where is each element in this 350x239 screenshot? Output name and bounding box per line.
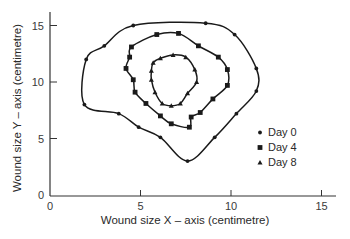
legend-item: Day 0 — [258, 126, 297, 138]
square-marker-icon — [196, 43, 201, 48]
series-day-0 — [82, 21, 259, 163]
series-layer — [82, 21, 259, 163]
series-curve — [151, 55, 197, 106]
y-tick-label: 5 — [38, 133, 44, 145]
series-curve — [82, 22, 259, 161]
square-marker-icon — [225, 83, 230, 88]
triangle-marker-icon — [152, 90, 157, 95]
triangle-marker-icon — [149, 77, 154, 82]
square-marker-icon — [198, 110, 203, 115]
square-marker-icon — [144, 101, 149, 106]
circle-marker-icon — [159, 135, 163, 139]
legend-label: Day 4 — [268, 141, 297, 153]
legend-item: Day 4 — [258, 141, 297, 153]
circle-marker-icon — [186, 159, 190, 163]
circle-marker-icon — [235, 112, 239, 116]
legend-item: Day 8 — [258, 156, 297, 168]
x-tick-label: 0 — [47, 200, 53, 212]
circle-marker-icon — [204, 21, 208, 25]
square-marker-icon — [133, 90, 138, 95]
y-tick-label: 0 — [38, 189, 44, 201]
circle-marker-icon — [213, 135, 217, 139]
square-marker-icon — [211, 97, 216, 102]
series-day-4 — [124, 31, 230, 130]
square-marker-icon — [216, 55, 221, 60]
legend: Day 0Day 4Day 8 — [258, 126, 297, 168]
square-marker-icon — [154, 32, 159, 37]
square-marker-icon — [225, 67, 230, 72]
y-tick-label: 15 — [32, 20, 44, 32]
circle-marker-icon — [233, 33, 237, 37]
series-day-8 — [149, 52, 199, 107]
wound-size-chart: 051015 051015 Wound size X – axis (centi… — [0, 0, 350, 239]
x-tick-label: 15 — [315, 200, 327, 212]
triangle-marker-icon — [149, 68, 154, 73]
square-marker-icon — [129, 45, 134, 50]
x-axis-label: Wound size X – axis (centimetre) — [101, 214, 270, 226]
square-marker-icon — [158, 114, 163, 119]
triangle-marker-icon — [258, 160, 263, 165]
axes: 051015 051015 Wound size X – axis (centi… — [11, 12, 336, 226]
y-axis-label: Wound size Y – axis (centimetre) — [11, 24, 23, 192]
triangle-marker-icon — [194, 80, 199, 85]
series-curve — [126, 32, 229, 127]
circle-marker-icon — [254, 89, 258, 93]
square-marker-icon — [169, 121, 174, 126]
square-marker-icon — [258, 145, 263, 150]
square-marker-icon — [187, 125, 192, 130]
x-tick-label: 10 — [225, 200, 237, 212]
square-marker-icon — [127, 55, 132, 60]
y-ticks: 051015 — [32, 20, 57, 202]
square-marker-icon — [131, 77, 136, 82]
square-marker-icon — [189, 115, 194, 120]
y-tick-label: 10 — [32, 76, 44, 88]
circle-marker-icon — [258, 131, 262, 135]
x-tick-label: 5 — [137, 200, 143, 212]
circle-marker-icon — [102, 44, 106, 48]
circle-marker-icon — [131, 24, 135, 28]
circle-marker-icon — [82, 103, 86, 107]
x-ticks: 051015 — [47, 190, 328, 212]
legend-label: Day 8 — [268, 156, 297, 168]
circle-marker-icon — [117, 112, 121, 116]
square-marker-icon — [124, 66, 129, 71]
square-marker-icon — [176, 31, 181, 36]
circle-marker-icon — [254, 67, 258, 71]
circle-marker-icon — [84, 58, 88, 62]
circle-marker-icon — [137, 125, 141, 129]
legend-label: Day 0 — [268, 126, 297, 138]
triangle-marker-icon — [192, 67, 197, 72]
